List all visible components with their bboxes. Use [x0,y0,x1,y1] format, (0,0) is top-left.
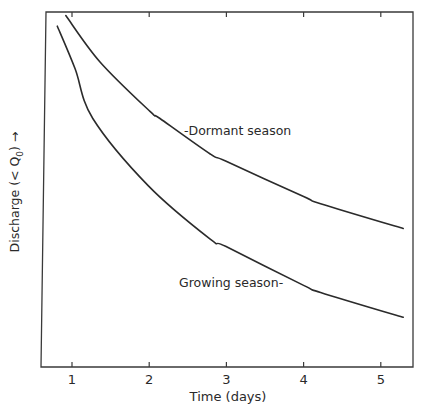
svg-text:Discharge (< Q0) →: Discharge (< Q0) → [7,132,25,253]
plot-frame [41,12,413,367]
x-axis-label: Time (days) [189,389,267,404]
y-axis-label-tail: ) → [7,132,22,151]
curve-growing-season [57,26,403,317]
x-tick-labels: 12345 [68,372,385,387]
recession-chart: 12345 -Dormant season Growing season- Ti… [0,0,423,407]
x-tick-label: 5 [377,372,385,387]
curves [57,16,403,318]
label-dormant-season: -Dormant season [184,123,291,138]
label-growing-season: Growing season- [179,275,283,290]
y-axis-label: Discharge (< Q0) → [7,132,25,253]
x-tick-label: 1 [68,372,76,387]
x-tick-label: 3 [222,372,230,387]
x-tick-label: 2 [145,372,153,387]
x-ticks [72,12,381,367]
y-axis-label-main: Discharge (< Q [7,156,22,252]
x-tick-label: 4 [299,372,307,387]
axes-box [41,12,413,367]
